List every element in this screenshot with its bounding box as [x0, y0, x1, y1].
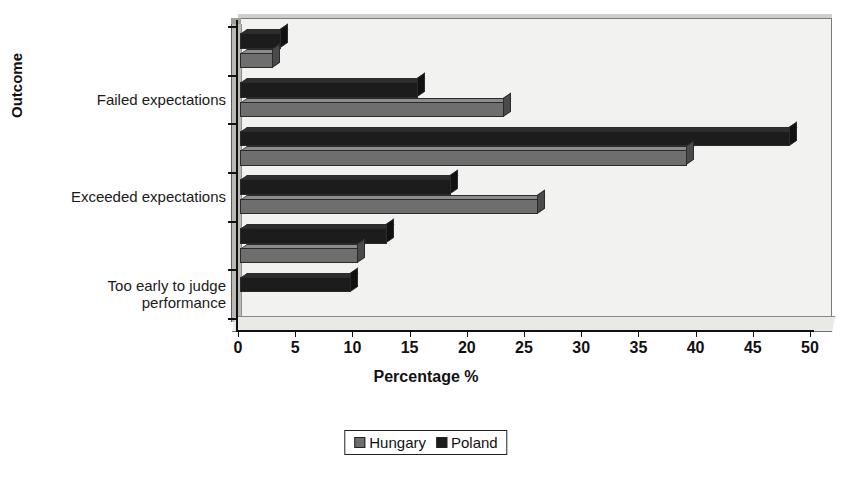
- x-tick-15: [410, 330, 411, 337]
- x-tick-45: [753, 330, 754, 337]
- x-tick-label-10: 10: [343, 339, 361, 357]
- bar-front-face: [240, 179, 451, 194]
- y-tick-5: [228, 269, 236, 271]
- y-axis-category-labels: Failed expectationsExceeded expectations…: [20, 0, 226, 491]
- x-tick-35: [638, 330, 639, 337]
- x-tick-0: [238, 330, 239, 337]
- x-tick-label-25: 25: [515, 339, 533, 357]
- bar-hungary-1: [240, 98, 511, 117]
- bar-poland-0: [240, 29, 288, 48]
- x-tick-label-30: 30: [572, 339, 590, 357]
- bar-front-face: [240, 199, 538, 214]
- bar-front-face: [240, 82, 418, 97]
- y-axis-title: Outcome: [8, 53, 25, 118]
- bar-side-face: [450, 170, 458, 195]
- x-tick-label-0: 0: [234, 339, 243, 357]
- bar-poland-5: [240, 273, 358, 292]
- x-tick-label-5: 5: [291, 339, 300, 357]
- x-tick-label-35: 35: [629, 339, 647, 357]
- y-category-label-1: Failed expectations: [26, 91, 226, 108]
- x-tick-40: [696, 330, 697, 337]
- bar-side-face: [350, 267, 358, 292]
- x-axis-title: Percentage %: [0, 368, 852, 386]
- x-tick-label-15: 15: [401, 339, 419, 357]
- x-tick-25: [524, 330, 525, 337]
- bar-front-face: [240, 228, 387, 243]
- bar-front-face: [240, 102, 504, 117]
- x-tick-label-40: 40: [687, 339, 705, 357]
- bar-hungary-3: [240, 195, 545, 214]
- y-category-label-5: Too early to judge performance: [26, 277, 226, 311]
- bar-poland-4: [240, 224, 394, 243]
- bar-hungary-2: [240, 146, 694, 165]
- legend-item-hungary[interactable]: Hungary: [354, 434, 426, 451]
- bar-front-face: [240, 53, 273, 68]
- bar-poland-2: [240, 127, 797, 146]
- bars-plot-area: [240, 26, 812, 318]
- x-tick-10: [352, 330, 353, 337]
- x-tick-20: [467, 330, 468, 337]
- y-tick-6: [228, 318, 236, 320]
- x-tick-label-20: 20: [458, 339, 476, 357]
- y-tick-3: [228, 172, 236, 174]
- bar-front-face: [240, 131, 790, 146]
- bar-poland-1: [240, 78, 425, 97]
- bar-side-face: [272, 43, 280, 68]
- bar-side-face: [386, 219, 394, 244]
- x-axis-line: [238, 330, 814, 332]
- x-tick-label-50: 50: [801, 339, 819, 357]
- bar-side-face: [686, 141, 694, 166]
- poland-swatch-icon: [436, 437, 447, 448]
- bar-hungary-0: [240, 49, 280, 68]
- bar-side-face: [789, 121, 797, 146]
- x-tick-label-45: 45: [744, 339, 762, 357]
- y-category-label-3: Exceeded expectations: [26, 188, 226, 205]
- bar-side-face: [503, 92, 511, 117]
- chart-legend: Hungary Poland: [344, 430, 507, 455]
- y-tick-0: [228, 26, 236, 28]
- bar-front-face: [240, 150, 687, 165]
- bar-chart-figure: 05101520253035404550 Failed expectations…: [0, 0, 852, 491]
- y-tick-2: [228, 123, 236, 125]
- x-tick-30: [581, 330, 582, 337]
- bar-side-face: [357, 238, 365, 263]
- bar-side-face: [280, 24, 288, 49]
- legend-label-hungary: Hungary: [369, 434, 426, 451]
- y-tick-4: [228, 221, 236, 223]
- bar-poland-3: [240, 175, 458, 194]
- bar-side-face: [417, 73, 425, 98]
- hungary-swatch-icon: [354, 437, 365, 448]
- bar-side-face: [537, 189, 545, 214]
- y-tick-1: [228, 75, 236, 77]
- x-tick-5: [295, 330, 296, 337]
- legend-item-poland[interactable]: Poland: [436, 434, 498, 451]
- bar-front-face: [240, 248, 358, 263]
- x-tick-50: [810, 330, 811, 337]
- bar-front-face: [240, 277, 351, 292]
- bar-hungary-4: [240, 244, 365, 263]
- legend-label-poland: Poland: [451, 434, 498, 451]
- y-axis-line: [236, 20, 238, 332]
